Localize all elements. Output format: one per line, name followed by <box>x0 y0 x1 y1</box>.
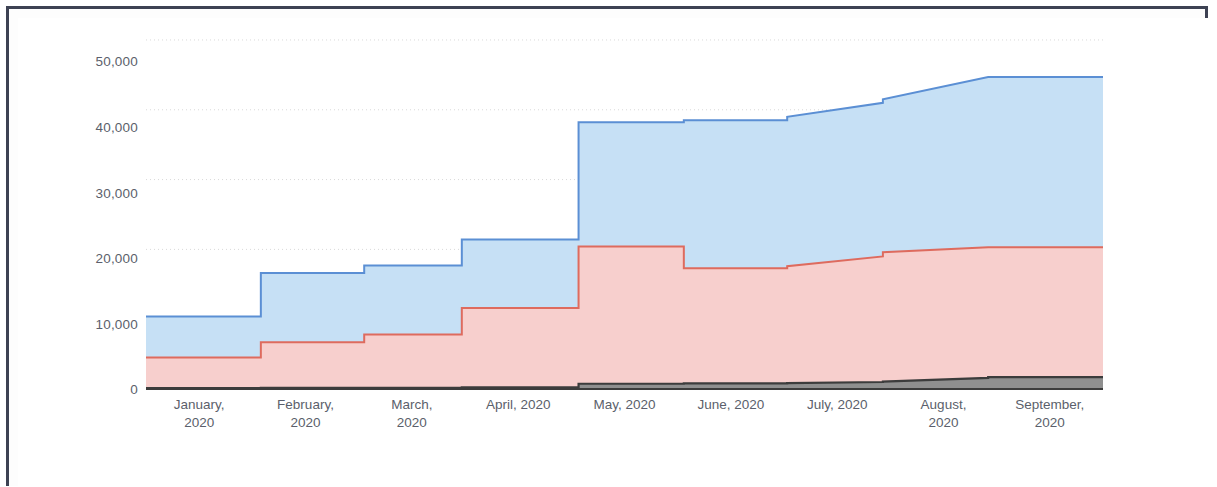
x-tick-label-line2: 2020 <box>1015 414 1084 432</box>
stacked-step-area-chart <box>146 18 1103 390</box>
x-axis: January,2020February,2020March,2020April… <box>146 396 1103 452</box>
y-tick-label: 20,000 <box>66 251 138 266</box>
x-tick-label-line1: June, 2020 <box>697 397 764 412</box>
x-tick-label-line1: July, 2020 <box>807 397 868 412</box>
y-tick-label: 10,000 <box>66 317 138 332</box>
y-tick-label: 0 <box>66 382 138 397</box>
x-tick-label-line2: 2020 <box>921 414 967 432</box>
x-tick-label-line1: January, <box>174 397 225 412</box>
x-tick-label: January,2020 <box>174 396 225 432</box>
x-tick-label: May, 2020 <box>593 396 655 414</box>
x-tick-label: April, 2020 <box>486 396 551 414</box>
x-tick-label-line2: 2020 <box>391 414 432 432</box>
plot-area <box>146 18 1103 390</box>
y-tick-label: 30,000 <box>66 186 138 201</box>
x-tick-label-line2: 2020 <box>174 414 225 432</box>
x-tick-label-line1: March, <box>391 397 432 412</box>
x-tick-label-line1: April, 2020 <box>486 397 551 412</box>
x-tick-label-line2: 2020 <box>277 414 334 432</box>
y-tick-label: 40,000 <box>66 120 138 135</box>
chart-card: 50,000 40,000 30,000 20,000 10,000 0 Jan… <box>18 18 1214 487</box>
y-tick-label: 50,000 <box>66 54 138 69</box>
x-tick-label-line1: February, <box>277 397 334 412</box>
x-tick-label-line1: May, 2020 <box>593 397 655 412</box>
y-axis: 50,000 40,000 30,000 20,000 10,000 0 <box>58 18 138 390</box>
x-tick-label: March,2020 <box>391 396 432 432</box>
x-tick-label: July, 2020 <box>807 396 868 414</box>
series-areas <box>146 77 1103 389</box>
x-tick-label-line1: September, <box>1015 397 1084 412</box>
x-tick-label: September,2020 <box>1015 396 1084 432</box>
document-border: 50,000 40,000 30,000 20,000 10,000 0 Jan… <box>6 6 1208 486</box>
x-tick-label: June, 2020 <box>697 396 764 414</box>
x-tick-label-line1: August, <box>921 397 967 412</box>
x-tick-label: February,2020 <box>277 396 334 432</box>
x-tick-label: August,2020 <box>921 396 967 432</box>
